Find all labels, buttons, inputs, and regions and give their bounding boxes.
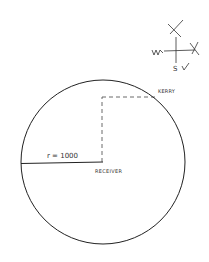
west-check-icon <box>152 50 163 55</box>
receiver-label: RECEIVER <box>95 168 122 174</box>
south-check-icon <box>182 63 189 70</box>
diagram-canvas: S <box>0 0 209 262</box>
kerry-label: KERRY <box>158 88 175 94</box>
south-letter: S <box>173 65 178 73</box>
radius-line <box>21 162 103 164</box>
radius-label: r = 1000 <box>47 152 78 160</box>
compass-icon <box>164 20 199 63</box>
